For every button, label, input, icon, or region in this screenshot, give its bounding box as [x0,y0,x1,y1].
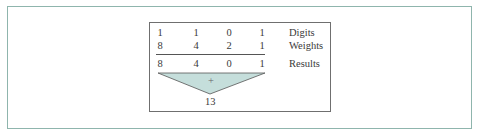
weight-4: 1 [255,40,269,52]
result-1: 8 [153,58,167,70]
digits-label: Digits [289,27,315,39]
digit-4: 1 [255,27,269,39]
divider-line [156,54,265,55]
total-value: 13 [205,96,216,108]
digit-2: 1 [189,27,203,39]
weight-3: 2 [222,40,236,52]
result-2: 4 [189,58,203,70]
results-label: Results [289,58,320,70]
weight-2: 4 [189,40,203,52]
weights-label: Weights [289,40,323,52]
weight-1: 8 [153,40,167,52]
digit-3: 0 [222,27,236,39]
digit-1: 1 [153,27,167,39]
result-4: 1 [255,58,269,70]
plus-sign: + [204,75,218,87]
result-3: 0 [222,58,236,70]
